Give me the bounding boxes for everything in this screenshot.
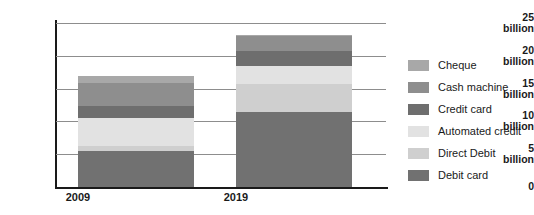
bar-segment-direct-debit-2019[interactable] [236,84,352,112]
legend-item-direct-debit[interactable]: Direct Debit [408,142,534,164]
bar-segment-cash-machine-2009[interactable] [78,83,194,106]
legend-swatch-icon [408,148,429,159]
bar-segment-cheque-2009[interactable] [78,76,194,84]
stacked-bar-chart: 25billion20billion15billion10billion5bil… [0,0,534,215]
legend-label: Cheque [438,59,477,71]
legend-item-debit-card[interactable]: Debit card [408,164,534,186]
x-axis-label-2009: 2009 [13,191,143,203]
legend-label: Credit card [438,103,492,115]
y-tick-25: 25billion [488,12,534,34]
bar-segment-debit-card-2019[interactable] [236,112,352,187]
bar-segment-debit-card-2009[interactable] [78,151,194,187]
legend-label: Debit card [438,169,488,181]
plot-area [56,23,386,187]
x-axis-label-2019: 2019 [171,191,301,203]
legend-swatch-icon [408,170,429,181]
legend-label: Cash machine [438,81,508,93]
bar-segment-cheque-2019[interactable] [236,35,352,36]
legend-item-cheque[interactable]: Cheque [408,54,534,76]
legend-swatch-icon [408,82,429,93]
bar-segment-automated-credit-2009[interactable] [78,118,194,146]
legend-label: Automated credit [438,125,521,137]
bar-segment-direct-debit-2009[interactable] [78,146,194,151]
bar-segment-automated-credit-2019[interactable] [236,66,352,84]
bar-segment-credit-card-2019[interactable] [236,51,352,66]
bar-segment-cash-machine-2019[interactable] [236,36,352,50]
y-tick-unit: billion [488,23,534,34]
gridline-25 [56,23,386,24]
legend-item-credit-card[interactable]: Credit card [408,98,534,120]
legend-item-cash-machine[interactable]: Cash machine [408,76,534,98]
x-axis-line [55,187,388,189]
legend-label: Direct Debit [438,147,495,159]
legend-swatch-icon [408,60,429,71]
bar-segment-credit-card-2009[interactable] [78,106,194,118]
legend-item-automated-credit[interactable]: Automated credit [408,120,534,142]
legend-swatch-icon [408,126,429,137]
legend-swatch-icon [408,104,429,115]
chart-legend: ChequeCash machineCredit cardAutomated c… [408,54,534,186]
